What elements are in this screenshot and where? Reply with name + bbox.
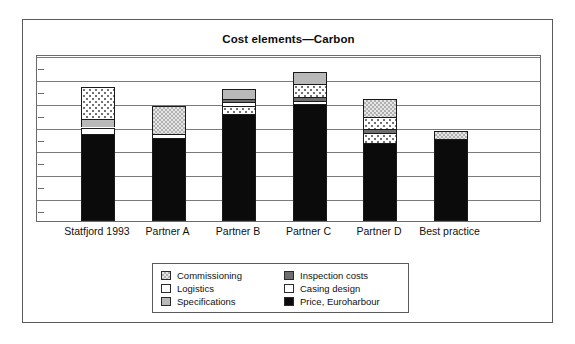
legend-swatch-icon [161,284,171,293]
bar-segment-specifications[interactable] [293,72,327,84]
legend-swatch-icon [284,297,294,306]
chart-title: Cost elements—Carbon [23,33,554,45]
legend-swatch-icon [284,284,294,293]
bar-segment-casing-design[interactable] [152,134,186,137]
bar-segment-casing-design[interactable] [222,102,256,105]
bar-segment-inspection-costs[interactable] [293,97,327,100]
bar-segment-logistics[interactable] [293,84,327,97]
legend-item[interactable]: Price, Euroharbour [284,295,380,308]
legend-label: Logistics [177,283,214,294]
legend-label: Casing design [300,283,360,294]
bar-segment-inspection-costs[interactable] [363,129,397,132]
legend-column-right: Inspection costsCasing designPrice, Euro… [284,269,380,308]
chart-legend: CommissioningLogisticsSpecifications Ins… [152,263,409,313]
legend-swatch-icon [161,271,171,280]
bar-best-practice[interactable] [434,131,468,221]
bar-segment-logistics[interactable] [81,87,115,119]
bar-segment-commissioning[interactable] [152,106,186,134]
bar-segment-logistics[interactable] [363,133,397,143]
legend-swatch-icon [161,297,171,306]
bar-segment-specifications[interactable] [222,89,256,99]
legend-label: Specifications [177,296,236,307]
bar-segment-casing-design[interactable] [363,117,397,129]
bar-segment-casing-design[interactable] [293,101,327,104]
bar-segment-price-euroharbour[interactable] [434,139,468,221]
legend-item[interactable]: Casing design [284,282,380,295]
plot-area [36,55,541,222]
bar-segment-price-euroharbour[interactable] [152,138,186,222]
bar-partner-d[interactable] [363,99,397,221]
bar-segment-price-euroharbour[interactable] [363,143,397,221]
bar-segment-specifications[interactable] [81,119,115,127]
bar-partner-c[interactable] [293,72,327,221]
bar-segment-casing-design[interactable] [81,128,115,135]
bar-statfjord-1993[interactable] [81,87,115,221]
legend-item[interactable]: Inspection costs [284,269,380,282]
bar-partner-b[interactable] [222,89,256,221]
legend-label: Price, Euroharbour [300,296,380,307]
bar-segment-logistics[interactable] [222,106,256,114]
legend-item[interactable]: Logistics [161,282,242,295]
bars-layer [37,56,540,221]
legend-swatch-icon [284,271,294,280]
bar-segment-inspection-costs[interactable] [222,99,256,102]
bar-segment-price-euroharbour[interactable] [293,104,327,221]
legend-item[interactable]: Commissioning [161,269,242,282]
legend-column-left: CommissioningLogisticsSpecifications [161,269,242,308]
figure-frame: Cost elements—Carbon Statfjord 1993Partn… [22,19,553,323]
legend-label: Commissioning [177,270,242,281]
bar-segment-price-euroharbour[interactable] [81,134,115,221]
x-axis-labels: Statfjord 1993Partner APartner BPartner … [36,225,541,243]
bar-segment-commissioning[interactable] [363,99,397,117]
bar-partner-a[interactable] [152,106,186,221]
bar-segment-price-euroharbour[interactable] [222,114,256,221]
legend-label: Inspection costs [300,270,368,281]
bar-segment-commissioning[interactable] [434,131,468,139]
x-axis-label: Best practice [405,225,495,237]
legend-item[interactable]: Specifications [161,295,242,308]
